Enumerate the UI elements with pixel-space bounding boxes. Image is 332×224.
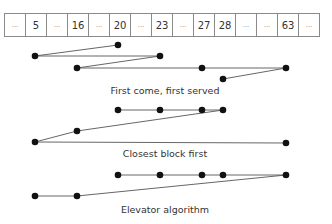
request-point (74, 193, 81, 200)
request-point (220, 107, 227, 114)
request-point (199, 172, 206, 179)
request-point (283, 140, 290, 147)
request-point (115, 107, 122, 114)
request-point (115, 42, 122, 49)
seek-line (35, 110, 286, 143)
request-point (220, 172, 227, 179)
request-point (199, 107, 206, 114)
request-point (283, 65, 290, 72)
seek-line (35, 45, 286, 79)
diagram-label: First come, first served (111, 85, 220, 96)
request-point (115, 172, 122, 179)
diagram-2 (32, 172, 290, 200)
diagram-label: Closest block first (123, 148, 207, 159)
request-point (199, 65, 206, 72)
request-point (157, 53, 164, 60)
request-point (157, 107, 164, 114)
seek-paths (0, 0, 332, 224)
request-point (283, 172, 290, 179)
request-point (32, 53, 39, 60)
diagram-0 (32, 42, 290, 83)
request-point (220, 76, 227, 83)
request-point (157, 172, 164, 179)
request-point (74, 128, 81, 135)
request-point (32, 193, 39, 200)
request-point (32, 139, 39, 146)
diagram-label: Elevator algorithm (121, 204, 209, 215)
request-point (74, 65, 81, 72)
diagram-1 (32, 107, 290, 147)
